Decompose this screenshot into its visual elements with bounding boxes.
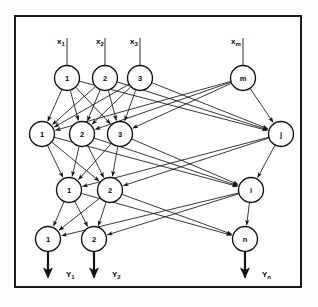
node-label-L1N2: 2: [103, 74, 107, 83]
figure-root: 123m123j12i12n x1x2x3xmY1Y2Yn: [0, 0, 318, 307]
edge-L1Nm-to-L2Nj: [250, 89, 273, 123]
node-label-L3Ni: i: [250, 186, 252, 195]
node-label-L1N3: 3: [138, 74, 142, 83]
node-L1N2[interactable]: 2: [93, 66, 118, 91]
node-L2N2[interactable]: 2: [70, 122, 95, 147]
node-label-L1N1: 1: [65, 74, 69, 83]
node-L4N2[interactable]: 2: [82, 227, 107, 252]
node-L2Nj[interactable]: j: [269, 122, 294, 147]
edge-L2N3-to-L3N2: [112, 147, 117, 176]
edge-L3N1-to-L4N1: [54, 202, 64, 226]
edge-L3N1-to-L4N2: [75, 202, 88, 227]
edge-L3N2-to-L4N1: [59, 198, 100, 230]
edge-L1N1-to-L2N1: [48, 90, 62, 121]
node-label-L2Nj: j: [279, 130, 282, 139]
node-label-L4N2: 2: [92, 235, 96, 244]
node-label-L3N1: 1: [67, 186, 71, 195]
edge-L3N2-to-L4N2: [98, 202, 106, 225]
node-L3N2[interactable]: 2: [98, 178, 123, 203]
node-L3Ni[interactable]: i: [239, 178, 264, 203]
input-stem-group: [67, 38, 243, 66]
edge-L1Nm-to-L2N3: [133, 83, 231, 128]
edge-L3N2-to-L4Nn: [122, 194, 232, 234]
node-label-L4N1: 1: [46, 235, 50, 244]
edge-L1N1-to-L2N3: [76, 87, 110, 123]
input-label-x1: x1: [57, 37, 65, 47]
node-L1N1[interactable]: 1: [55, 66, 80, 91]
edges-hidden2-to-output: [54, 193, 250, 236]
node-L1N3[interactable]: 3: [128, 66, 153, 91]
edge-L2N3-to-L3N1: [78, 144, 111, 180]
node-L1Nm[interactable]: m: [231, 66, 256, 91]
node-label-L2N3: 3: [118, 130, 122, 139]
node-label-L2N1: 1: [40, 130, 44, 139]
edge-L2N2-to-L3N1: [72, 147, 79, 177]
node-L2N1[interactable]: 1: [30, 122, 55, 147]
output-label-yn: Yn: [262, 270, 271, 280]
node-L4N1[interactable]: 1: [36, 227, 61, 252]
network-diagram: 123m123j12i12n x1x2x3xmY1Y2Yn: [0, 0, 318, 307]
node-label-L3N2: 2: [108, 186, 112, 195]
edge-L1N2-to-L2N1: [52, 87, 95, 125]
edge-L1N2-to-L2N2: [87, 90, 100, 121]
output-label-y1: Y1: [66, 270, 75, 280]
edge-L2N2-to-L3N2: [88, 146, 104, 178]
node-label-L1Nm: m: [240, 74, 247, 83]
edge-L2Nj-to-L3Ni: [258, 145, 275, 177]
node-label-L2N2: 2: [80, 130, 84, 139]
edge-L2N1-to-L3N1: [48, 146, 63, 178]
output-stem-group: [48, 252, 245, 278]
input-label-x3: x3: [130, 37, 138, 47]
output-label-y2: Y2: [112, 270, 121, 280]
node-L4Nn[interactable]: n: [233, 227, 258, 252]
input-label-xm: xm: [231, 37, 241, 47]
node-L3N1[interactable]: 1: [57, 178, 82, 203]
edge-L3Ni-to-L4N2: [107, 194, 238, 235]
edge-L3Ni-to-L4Nn: [247, 203, 250, 225]
node-label-L4Nn: n: [243, 235, 248, 244]
node-L2N3[interactable]: 3: [108, 122, 133, 147]
input-label-x2: x2: [96, 37, 104, 47]
